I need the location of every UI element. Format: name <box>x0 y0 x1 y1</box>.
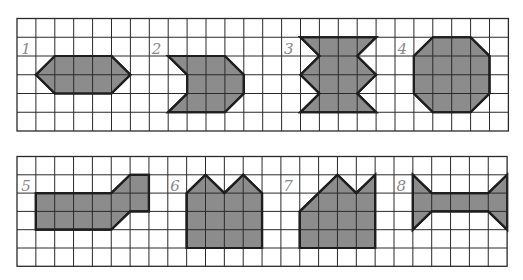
figure-label: 3 <box>284 40 294 58</box>
figure-label: 6 <box>170 177 180 195</box>
grid-bottom: 5678 <box>17 157 507 267</box>
figure-label: 2 <box>151 40 162 58</box>
worksheet-canvas: 1234 5678 <box>0 0 523 280</box>
figure-label: 7 <box>283 177 293 195</box>
figure-label: 5 <box>21 177 31 195</box>
figure-8-shape <box>413 175 507 230</box>
grid-top: 1234 <box>17 19 508 132</box>
figure-label: 4 <box>396 40 407 58</box>
figure-label: 8 <box>396 177 406 195</box>
figure-label: 1 <box>21 40 31 58</box>
